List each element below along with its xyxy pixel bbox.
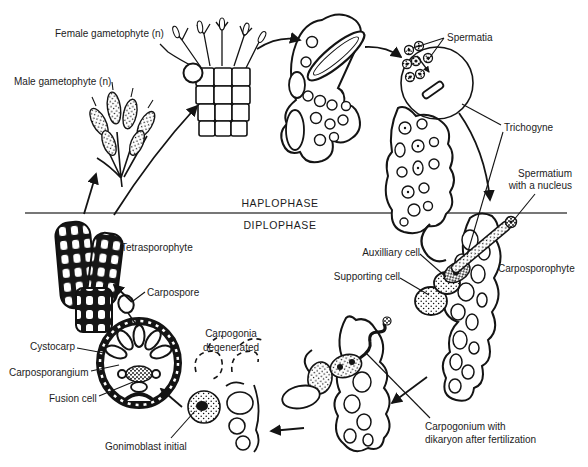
label-spermatia: Spermatia: [447, 32, 493, 43]
fusion-cell-shape: [131, 382, 147, 392]
pointer-carpospore: [133, 292, 145, 301]
label-carpogonium-line2: dikaryon after fertilization: [425, 434, 536, 445]
label-carpospore: Carpospore: [147, 287, 200, 298]
label-diplophase: DIPLOPHASE: [243, 219, 316, 231]
label-tetrasporophyte: Tetrasporophyte: [121, 242, 193, 253]
label-female-gametophyte: Female gametophyte (n): [55, 28, 164, 39]
pointer-gonimoblast: [171, 411, 195, 438]
label-carposporangium: Carposporangium: [9, 367, 89, 378]
label-trichogyne: Trichogyne: [504, 122, 554, 133]
label-spermatium-line2: with a nucleus: [508, 180, 572, 191]
label-carpogonium-line1: Carpogonium with: [425, 421, 506, 432]
arrow-to-spermatia-section: [365, 47, 401, 57]
carposporophyte-drawing: [415, 213, 517, 400]
gonimoblast-initial-drawing: [188, 336, 262, 452]
arrow-to-fertilized-carpogonium: [392, 377, 427, 403]
label-male-gametophyte: Male gametophyte (n): [14, 76, 111, 87]
pointer-supporting-cell: [400, 278, 429, 295]
label-gonimoblast-initial: Gonimoblast initial: [105, 441, 187, 452]
label-cystocarp: Cystocarp: [30, 341, 75, 352]
pointer-auxiliary-cell: [420, 254, 446, 277]
arrow-to-gonimoblast: [271, 428, 304, 431]
label-spermatium-line1: Spermatium: [518, 168, 572, 179]
pointer-trichogyne-upper: [462, 104, 501, 125]
female-gametophyte-drawing: [160, 18, 267, 136]
label-carposporophyte: Carposporophyte: [498, 263, 575, 274]
male-gametophyte-drawing: [86, 82, 158, 187]
trichogyne-tip: [422, 81, 445, 100]
label-carpogonia-line1: Carpogonia: [205, 328, 257, 339]
life-cycle-diagram: Female gametophyte (n) Male gametophyte …: [0, 0, 588, 467]
fertilized-carpogonium-drawing: [280, 316, 391, 451]
arrow-to-diplophase: [459, 113, 490, 200]
tetrasporophyte-drawing: [54, 221, 124, 332]
arrow-tetrasporophyte-to-male: [84, 174, 96, 214]
trichogyne-section-drawing: [281, 14, 370, 162]
label-auxiliary-cell: Auxilliary cell: [362, 247, 420, 258]
diagram-canvas: Female gametophyte (n) Male gametophyte …: [0, 0, 588, 467]
label-supporting-cell: Supporting cell: [334, 271, 400, 282]
label-carpogonia-line2: degenerated: [203, 342, 259, 353]
label-haplophase: HAPLOPHASE: [241, 197, 318, 209]
label-fusion-cell: Fusion cell: [49, 393, 97, 404]
spermatia-section-drawing: [386, 42, 473, 234]
pointer-spermatium: [513, 194, 535, 221]
